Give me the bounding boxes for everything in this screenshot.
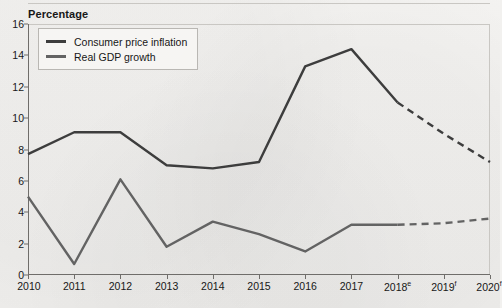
legend-item-label: Consumer price inflation — [74, 36, 187, 48]
y-axis-title: Percentage — [28, 8, 88, 20]
y-tick-label: 8 — [18, 144, 24, 156]
top-divider-rule — [28, 3, 490, 4]
chart-plot-area: 0246810121416 20102011201220132014201520… — [28, 24, 490, 275]
x-tick-mark — [167, 275, 168, 279]
x-tick-label: 2011 — [63, 280, 86, 292]
x-tick-label: 2010 — [17, 280, 40, 292]
y-tick-label: 2 — [18, 238, 24, 250]
y-tick-label: 4 — [18, 206, 24, 218]
x-tick-mark — [74, 275, 75, 279]
series-line-forecast — [398, 219, 490, 225]
x-tick-mark — [120, 275, 121, 279]
x-tick-label: 2014 — [201, 280, 224, 292]
y-tick-label: 10 — [12, 112, 24, 124]
x-tick-mark — [259, 275, 260, 279]
y-tick-label: 16 — [12, 18, 24, 30]
x-tick-mark — [213, 275, 214, 279]
y-tick-label: 14 — [12, 49, 24, 61]
legend-item[interactable]: Consumer price inflation — [46, 34, 187, 49]
x-tick-label: 2013 — [155, 280, 178, 292]
x-tick-label: 2017 — [340, 280, 363, 292]
chart-legend: Consumer price inflationReal GDP growth — [38, 28, 198, 70]
line-swatch-icon — [46, 55, 66, 58]
y-tick-label: 6 — [18, 175, 24, 187]
x-tick-label: 2020f — [476, 280, 501, 293]
x-tick-label: 2018e — [384, 280, 411, 293]
x-tick-label: 2012 — [109, 280, 132, 292]
x-tick-label: 2016 — [294, 280, 317, 292]
x-tick-mark — [28, 275, 29, 279]
x-tick-label: 2019f — [431, 280, 456, 293]
x-tick-mark — [490, 275, 491, 279]
x-tick-mark — [398, 275, 399, 279]
x-tick-mark — [351, 275, 352, 279]
x-tick-mark — [444, 275, 445, 279]
line-swatch-icon — [46, 40, 66, 43]
legend-item-label: Real GDP growth — [74, 51, 156, 63]
series-line-actual — [28, 179, 398, 264]
y-tick-label: 12 — [12, 81, 24, 93]
x-tick-label: 2015 — [247, 280, 270, 292]
series-line-forecast — [398, 102, 490, 162]
legend-item[interactable]: Real GDP growth — [46, 49, 187, 64]
x-tick-mark — [305, 275, 306, 279]
